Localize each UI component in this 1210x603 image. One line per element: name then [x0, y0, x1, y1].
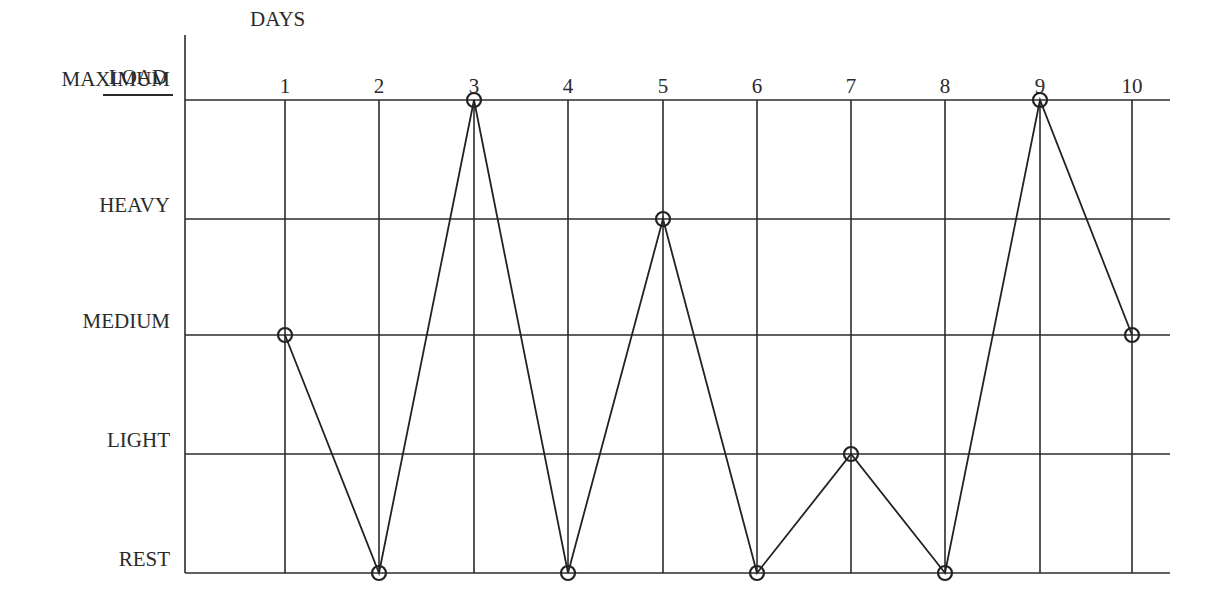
y-axis-labels: RESTLIGHTMEDIUMHEAVYMAXIMUM	[61, 67, 170, 571]
x-label-day-7: 7	[846, 74, 857, 98]
x-label-day-5: 5	[658, 74, 669, 98]
load-chart: LOAD DAYS RESTLIGHTMEDIUMHEAVYMAXIMUM 12…	[0, 0, 1210, 603]
y-label-light: LIGHT	[107, 428, 170, 452]
x-label-day-8: 8	[940, 74, 951, 98]
y-label-medium: MEDIUM	[83, 309, 171, 333]
y-label-rest: REST	[119, 547, 171, 571]
x-axis-labels: 12345678910	[280, 74, 1143, 98]
y-label-maximum: MAXIMUM	[61, 67, 170, 91]
y-label-heavy: HEAVY	[99, 193, 170, 217]
x-label-day-1: 1	[280, 74, 291, 98]
x-label-day-10: 10	[1122, 74, 1143, 98]
load-series-line	[285, 100, 1132, 573]
x-axis-title: DAYS	[250, 7, 305, 31]
x-label-day-6: 6	[752, 74, 763, 98]
x-label-day-4: 4	[563, 74, 574, 98]
data-point-markers	[278, 93, 1139, 580]
grid	[185, 35, 1170, 573]
x-label-day-2: 2	[374, 74, 385, 98]
